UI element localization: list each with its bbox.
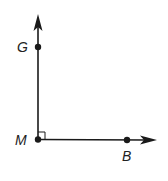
point-m: [35, 136, 41, 142]
right-angle-diagram: G M B: [0, 0, 168, 181]
label-b: B: [122, 148, 131, 164]
label-g: G: [17, 39, 28, 55]
point-b: [124, 137, 130, 143]
point-g: [35, 44, 41, 50]
label-m: M: [15, 132, 27, 148]
